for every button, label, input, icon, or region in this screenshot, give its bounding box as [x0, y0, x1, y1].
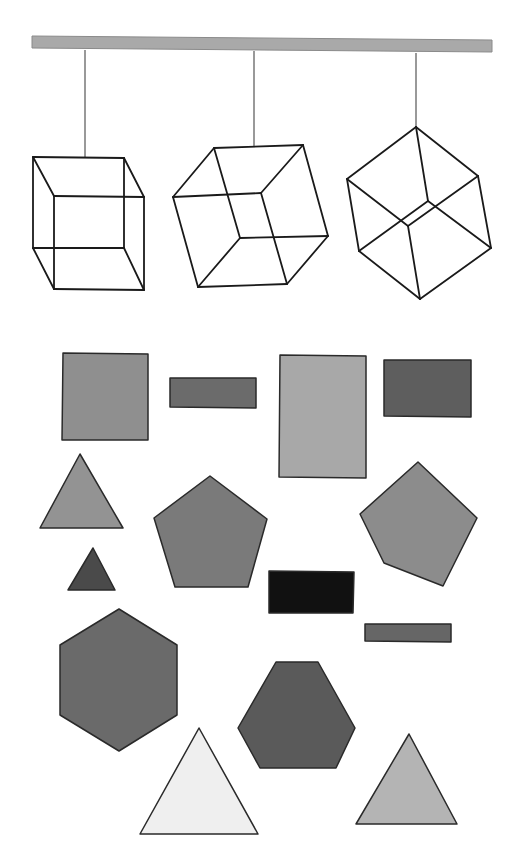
wireframe-cubes	[33, 50, 491, 299]
rectangle-dark-gray	[384, 360, 471, 417]
cube-edge	[124, 158, 144, 197]
cube-edge	[420, 248, 491, 299]
cube-edge	[173, 193, 261, 197]
cube-edge	[214, 148, 240, 238]
rectangle-black	[269, 571, 354, 613]
cube-edge	[416, 127, 478, 176]
cube-edge	[287, 236, 328, 284]
rectangle-thin-dark-gray	[170, 378, 256, 408]
gray-polygons	[40, 353, 477, 834]
triangle-light-gray	[356, 734, 457, 824]
cube-edge	[173, 148, 214, 197]
cube-edge	[33, 248, 54, 289]
cube-edge	[240, 236, 328, 238]
cube-edge	[54, 289, 144, 290]
diagram-canvas	[0, 0, 518, 860]
rectangle-thin-gray	[365, 624, 451, 642]
bar	[32, 36, 492, 52]
cube-edge	[33, 157, 54, 196]
cube-edge	[54, 196, 144, 197]
hexagon-dark	[238, 662, 355, 768]
cube-vertex-view	[347, 53, 491, 299]
cube-edge	[173, 197, 198, 287]
cube-edge	[261, 145, 303, 193]
cube-edge	[261, 193, 287, 284]
rectangle-tall-light-gray	[279, 355, 366, 478]
cube-edge	[478, 176, 491, 248]
cube-edge	[428, 201, 491, 248]
cube-front-view	[33, 50, 144, 290]
pentagon-rotated-gray	[360, 462, 477, 586]
cube-edge	[416, 127, 428, 201]
cube-edge	[347, 127, 416, 179]
triangle-small-dark	[68, 548, 115, 590]
cube-edge	[198, 284, 287, 287]
cube-edge	[359, 201, 428, 251]
cube-edge	[408, 176, 478, 226]
cube-edge	[33, 157, 124, 158]
cube-edge	[303, 145, 328, 236]
cube-edge	[124, 248, 144, 290]
cube-edge	[408, 226, 420, 299]
cube-edge	[214, 145, 303, 148]
cube-edge	[347, 179, 359, 251]
triangle-large-white	[140, 728, 258, 834]
cube-edge	[347, 179, 408, 226]
cube-edge	[198, 238, 240, 287]
triangle-medium-gray	[40, 454, 123, 528]
pentagon-medium-gray	[154, 476, 267, 587]
square-medium-gray	[62, 353, 148, 440]
hanging-bar	[32, 36, 492, 52]
cube-edge	[359, 251, 420, 299]
cube-rotated-view	[173, 51, 328, 287]
hexagon-large-dark	[60, 609, 177, 751]
